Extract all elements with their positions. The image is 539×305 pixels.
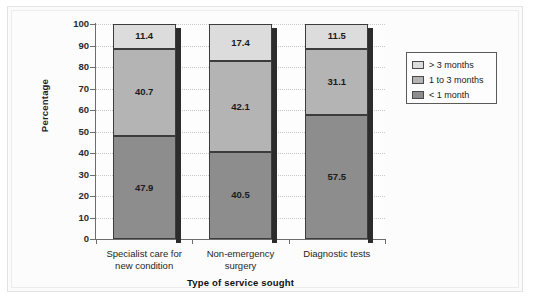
y-axis-tick-label: 30 [49,170,89,180]
x-axis-tick-mark [192,239,193,244]
legend-item[interactable]: < 1 month [412,87,496,102]
bar-value-label: 11.5 [328,31,346,41]
bar-segment[interactable]: 40.7 [113,49,176,137]
legend: > 3 months1 to 3 months< 1 month [406,52,497,104]
chart-screenshot: Percentage 1009080706050403020100 47.940… [0,0,539,305]
legend-item[interactable]: 1 to 3 months [412,72,496,87]
bar-shadow [176,28,181,243]
x-axis-tick-mark [289,239,290,244]
bar-segment[interactable]: 17.4 [209,24,272,61]
bar-segment[interactable]: 31.1 [305,49,368,116]
bar-value-label: 11.4 [135,31,153,41]
y-axis-tick-label: 100 [49,19,89,29]
bar-segment[interactable]: 42.1 [209,61,272,152]
x-axis-title: Type of service sought [96,277,385,288]
bar-value-label: 47.9 [135,183,154,193]
legend-color-swatch [412,61,424,69]
bar-group: 57.531.111.5 [305,24,368,239]
bar-segment[interactable]: 40.5 [209,152,272,239]
y-axis-tick-label: 20 [49,191,89,201]
x-axis-category-label-line: surgery [181,260,301,272]
bar-value-label: 31.1 [328,77,347,87]
y-axis-tick-label: 10 [49,213,89,223]
legend-color-swatch [412,91,424,99]
y-axis-labels: 1009080706050403020100 [45,0,89,305]
x-axis-line [95,239,386,240]
legend-item-label: 1 to 3 months [429,75,484,85]
x-axis-category-label: Diagnostic tests [277,248,397,260]
legend-item-label: > 3 months [429,60,474,70]
bar-value-label: 40.7 [135,87,154,97]
x-axis-category-label-line: Diagnostic tests [277,248,397,260]
y-axis-tick-label: 40 [49,148,89,158]
bar-segment[interactable]: 57.5 [305,115,368,239]
bar-value-label: 57.5 [328,172,347,182]
bar-group: 40.542.117.4 [209,24,272,239]
bar-shadow [272,28,277,243]
x-axis-tick-mark [96,239,97,244]
bar-group: 47.940.711.4 [113,24,176,239]
y-axis-tick-label: 60 [49,105,89,115]
bar-shadow [368,28,373,243]
legend-item[interactable]: > 3 months [412,57,496,72]
y-axis-tick-label: 80 [49,62,89,72]
bar-value-label: 17.4 [231,38,250,48]
bar-segment[interactable]: 11.5 [305,24,368,49]
y-axis-tick-label: 70 [49,84,89,94]
x-axis-tick-mark [385,239,386,244]
y-axis-tick-label: 90 [49,41,89,51]
bar-value-label: 40.5 [231,190,250,200]
bar-value-label: 42.1 [231,102,250,112]
bar-segment[interactable]: 11.4 [113,24,176,49]
bar-segment[interactable]: 47.9 [113,136,176,239]
legend-item-label: < 1 month [429,90,469,100]
plot-area: 47.940.711.440.542.117.457.531.111.5 [96,24,385,239]
y-axis-tick-label: 0 [49,234,89,244]
legend-color-swatch [412,76,424,84]
y-axis-tick-label: 50 [49,127,89,137]
